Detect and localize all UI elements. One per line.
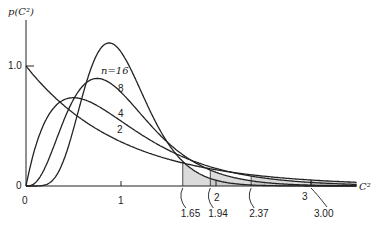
- x-tick-label-1: 1: [118, 195, 124, 206]
- x-axis-label: C²: [359, 181, 371, 192]
- critical-value-label-16: 1.65: [181, 208, 201, 219]
- x-tick-label-0: 0: [22, 195, 28, 206]
- critical-value-label-4: 2.37: [249, 208, 269, 219]
- curve-n2: [26, 66, 357, 182]
- density-curves: [26, 43, 357, 186]
- curve-label-n16: n=16: [101, 65, 129, 76]
- y-tick-label-1: 1.0: [8, 60, 22, 71]
- curve-label-n8: 8: [118, 83, 124, 94]
- pointer-arrow-icon: [181, 188, 186, 208]
- critical-value-label-8: 1.94: [208, 208, 228, 219]
- curve-label-n4: 4: [118, 108, 124, 119]
- critical-value-label-2: 3.00: [314, 208, 334, 219]
- curve-label-n2: 2: [117, 124, 123, 135]
- pointer-arrow-icon: [311, 188, 327, 207]
- y-tick-label-0: 0: [16, 180, 22, 191]
- x-tick-label-2: 2: [214, 192, 220, 203]
- critical-value-markers: 1.651.942.373.00: [181, 161, 334, 219]
- pointer-arrow-icon: [208, 188, 213, 208]
- x-tick-label-3: 3: [302, 191, 308, 202]
- chi-square-density-chart: p(C²) C² 1.0 0 0 1 2 3 n=16 8 4 2 1.651.…: [0, 0, 381, 229]
- pointer-arrow-icon: [249, 188, 254, 208]
- y-axis-label: p(C²): [8, 6, 34, 17]
